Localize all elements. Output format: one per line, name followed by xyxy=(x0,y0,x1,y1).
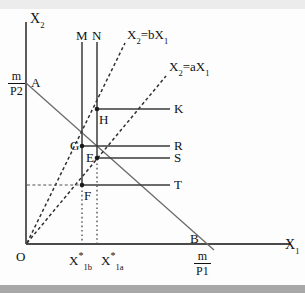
ray-label-aX1: X2=aX1 xyxy=(169,60,209,76)
m-over-p1-label: m P1 xyxy=(194,250,211,277)
budget-line-AB xyxy=(26,83,214,250)
segment-label-K: K xyxy=(174,102,183,115)
figure-container: X2 X1 O m P2 m P1 A B G E H F K R S T M … xyxy=(0,0,305,299)
point-label-E: E xyxy=(86,151,94,164)
m-over-p2-label: m P2 xyxy=(8,70,25,97)
vertical-line-label-M: M xyxy=(76,29,88,42)
ray-label-bX1: X2=bX1 xyxy=(127,28,168,44)
point-label-F: F xyxy=(84,189,91,202)
bottom-scan-band xyxy=(0,285,305,293)
point-dot-F xyxy=(80,183,85,188)
segment-label-S: S xyxy=(174,151,181,164)
point-dot-G xyxy=(80,144,85,149)
point-dot-E xyxy=(95,156,100,161)
x-tick-label-x1b: X*1b xyxy=(69,252,92,270)
x-tick-label-x1a: X*1a xyxy=(101,252,123,270)
point-label-H: H xyxy=(99,113,108,126)
segment-label-T: T xyxy=(174,178,182,191)
economics-diagram xyxy=(0,0,305,299)
point-dot-H xyxy=(95,107,100,112)
point-label-B: B xyxy=(190,232,199,245)
bottom-white-band xyxy=(0,293,305,299)
point-label-G: G xyxy=(70,139,79,152)
x-axis-label: X1 xyxy=(285,238,299,254)
y-axis-label: X2 xyxy=(30,12,44,28)
origin-label: O xyxy=(16,250,25,263)
point-label-A: A xyxy=(31,76,40,89)
vertical-line-label-N: N xyxy=(92,29,101,42)
